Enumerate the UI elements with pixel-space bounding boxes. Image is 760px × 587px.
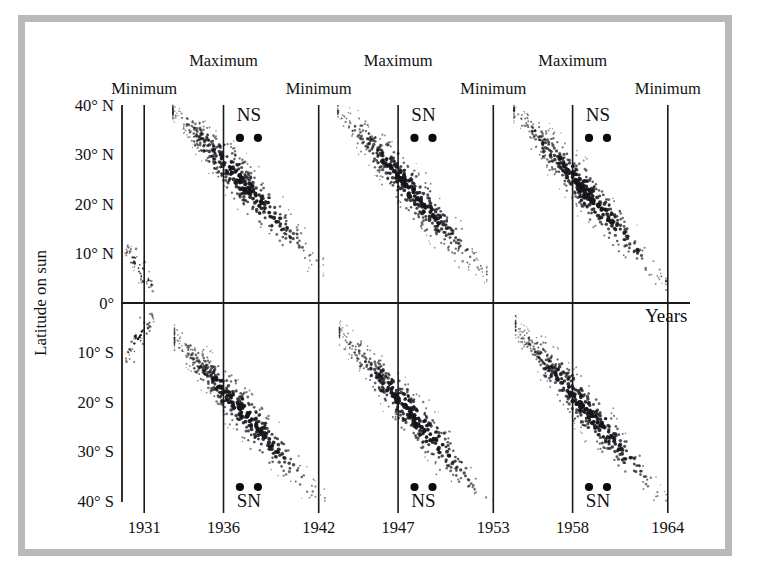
sunspot-dot bbox=[408, 209, 410, 211]
sunspot-dot bbox=[451, 229, 454, 232]
sunspot-dot bbox=[526, 332, 528, 334]
sunspot-dot bbox=[465, 467, 468, 470]
sunspot-dot bbox=[226, 143, 228, 145]
sunspot-dot bbox=[238, 163, 241, 166]
sunspot-dot bbox=[223, 185, 225, 187]
sunspot-dot bbox=[351, 130, 353, 132]
sunspot-dot bbox=[530, 148, 532, 150]
sunspot-dot bbox=[234, 150, 236, 152]
sunspot-dot bbox=[223, 413, 225, 415]
sunspot-dot bbox=[199, 128, 202, 131]
sunspot-dot bbox=[552, 128, 553, 129]
sunspot-dot bbox=[598, 189, 600, 191]
sunspot-dot bbox=[284, 237, 287, 240]
sunspot-dot bbox=[565, 177, 568, 180]
sunspot-dot bbox=[267, 193, 270, 196]
sunspot-dot bbox=[553, 371, 556, 374]
sunspot-dot bbox=[433, 422, 435, 424]
sunspot-dot bbox=[621, 217, 624, 220]
sunspot-dot bbox=[216, 385, 220, 389]
sunspot-dot bbox=[439, 469, 441, 471]
sunspot-dot bbox=[628, 242, 631, 245]
sunspot-dot bbox=[349, 107, 350, 108]
sunspot-dot bbox=[314, 480, 315, 481]
sunspot-dot bbox=[455, 248, 457, 250]
sunspot-dot bbox=[390, 146, 392, 148]
sunspot-dot bbox=[139, 317, 141, 319]
sunspot-dot bbox=[268, 215, 272, 219]
sunspot-dot bbox=[267, 196, 270, 199]
polarity-dot-5-1 bbox=[603, 483, 611, 491]
sunspot-dot bbox=[515, 315, 517, 317]
y-tick-label-8: 40° S bbox=[78, 492, 114, 511]
sunspot-dot bbox=[574, 423, 575, 424]
sunspot-dot bbox=[126, 250, 128, 252]
sunspot-dot bbox=[381, 158, 384, 161]
sunspot-dot bbox=[547, 141, 550, 144]
sunspot-dot bbox=[525, 344, 527, 346]
sunspot-dot bbox=[665, 281, 667, 283]
sunspot-dot bbox=[583, 393, 586, 396]
sunspot-dot bbox=[229, 394, 233, 398]
sunspot-dot bbox=[146, 283, 148, 285]
sunspot-dot bbox=[643, 488, 645, 490]
sunspot-dot bbox=[538, 122, 540, 124]
sunspot-dot bbox=[577, 415, 579, 417]
sunspot-dot bbox=[629, 456, 632, 459]
sunspot-dot bbox=[380, 403, 382, 405]
sunspot-dot bbox=[603, 202, 607, 206]
sunspot-dot bbox=[560, 132, 561, 133]
sunspot-dot bbox=[186, 118, 188, 120]
sunspot-dot bbox=[562, 164, 566, 168]
sunspot-dot bbox=[412, 413, 417, 418]
sunspot-dot bbox=[187, 136, 189, 138]
x-axis-title: Years bbox=[645, 305, 687, 326]
sunspot-dot bbox=[583, 179, 587, 183]
sunspot-dot bbox=[405, 376, 406, 377]
sunspot-dot bbox=[542, 342, 544, 344]
sunspot-dot bbox=[312, 252, 314, 254]
sunspot-dot bbox=[339, 344, 341, 346]
sunspot-dot bbox=[407, 194, 411, 198]
sunspot-dot bbox=[513, 120, 514, 121]
sunspot-dot bbox=[183, 132, 185, 134]
sunspot-dot bbox=[351, 357, 353, 359]
sunspot-dot bbox=[133, 261, 136, 264]
sunspot-dot bbox=[267, 201, 271, 205]
sunspot-dot bbox=[202, 129, 204, 131]
sunspot-dot bbox=[612, 437, 616, 441]
sunspot-dot bbox=[471, 251, 473, 253]
sunspot-dot bbox=[236, 428, 238, 430]
sunspot-dot bbox=[414, 212, 417, 215]
sunspot-dot bbox=[187, 345, 189, 347]
sunspot-dot bbox=[365, 357, 368, 360]
sunspot-dot bbox=[322, 275, 324, 277]
sunspot-dot bbox=[174, 337, 175, 338]
sunspot-dot bbox=[172, 110, 174, 112]
sunspot-dot bbox=[549, 169, 551, 171]
sunspot-dot bbox=[513, 105, 514, 106]
sunspot-dot bbox=[439, 210, 442, 213]
sunspot-dot bbox=[628, 246, 631, 249]
sunspot-dot bbox=[298, 455, 300, 457]
sunspot-dot bbox=[383, 363, 386, 366]
sunspot-dot bbox=[517, 336, 519, 338]
sunspot-dot bbox=[448, 430, 450, 432]
sunspot-dot bbox=[605, 198, 608, 201]
sunspot-dot bbox=[378, 169, 381, 172]
sunspot-dot bbox=[190, 349, 192, 351]
sunspot-dot bbox=[264, 427, 267, 430]
sunspot-dot bbox=[181, 112, 183, 114]
sunspot-dot bbox=[376, 175, 378, 177]
sunspot-dot bbox=[449, 236, 452, 239]
sunspot-dot bbox=[232, 177, 236, 181]
sunspot-dot bbox=[262, 210, 266, 214]
sunspot-dot bbox=[241, 198, 244, 201]
sunspot-dot bbox=[225, 395, 229, 399]
sunspot-dot bbox=[300, 232, 302, 234]
sunspot-dot bbox=[386, 388, 389, 391]
sunspot-dot bbox=[513, 118, 514, 119]
sunspot-dot bbox=[557, 394, 559, 396]
sunspot-dot bbox=[634, 470, 637, 473]
sunspot-dot bbox=[254, 410, 257, 413]
